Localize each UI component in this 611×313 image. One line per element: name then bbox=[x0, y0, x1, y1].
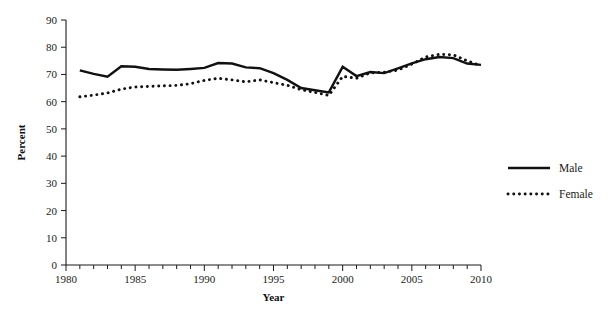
y-tick-label: 30 bbox=[46, 177, 58, 189]
y-axis: 0102030405060708090 bbox=[46, 14, 66, 271]
x-axis: 1980198519901995200020052010 bbox=[55, 265, 493, 285]
y-tick-label: 10 bbox=[46, 232, 58, 244]
chart-container: 0102030405060708090198019851990199520002… bbox=[0, 0, 611, 313]
x-tick-label: 2005 bbox=[401, 273, 424, 285]
y-tick-label: 70 bbox=[46, 68, 58, 80]
y-tick-label: 80 bbox=[46, 41, 58, 53]
y-tick-label: 50 bbox=[46, 123, 58, 135]
legend: MaleFemale bbox=[508, 162, 593, 200]
series-line-male bbox=[80, 57, 481, 92]
legend-label-male: Male bbox=[559, 162, 583, 174]
x-tick-label: 1990 bbox=[193, 273, 216, 285]
x-tick-label: 1995 bbox=[263, 273, 286, 285]
y-tick-label: 20 bbox=[46, 205, 58, 217]
x-tick-label: 2000 bbox=[332, 273, 355, 285]
y-tick-label: 60 bbox=[46, 96, 58, 108]
x-tick-label: 1980 bbox=[55, 273, 78, 285]
y-axis-title: Percent bbox=[15, 124, 27, 160]
y-tick-label: 40 bbox=[46, 150, 58, 162]
x-axis-title: Year bbox=[263, 291, 285, 303]
legend-label-female: Female bbox=[559, 188, 593, 200]
x-tick-label: 1985 bbox=[124, 273, 147, 285]
x-tick-label: 2010 bbox=[470, 273, 493, 285]
y-tick-label: 90 bbox=[46, 14, 58, 26]
y-tick-label: 0 bbox=[52, 259, 58, 271]
line-chart: 0102030405060708090198019851990199520002… bbox=[0, 0, 611, 313]
